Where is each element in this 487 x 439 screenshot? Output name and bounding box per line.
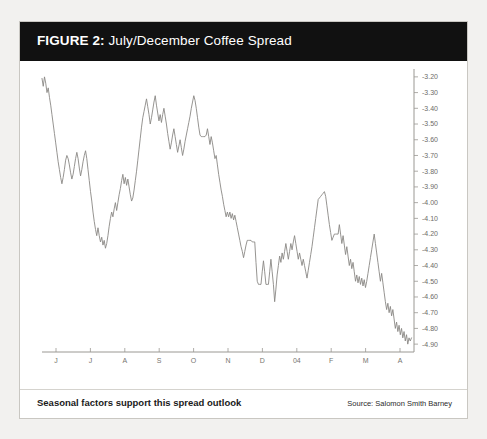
x-tick-label: A [122,357,127,364]
y-axis-ticks: -3.20-3.30-3.40-3.50-3.60-3.70-3.80-3.90… [414,73,438,347]
y-tick-label: -4.70 [422,309,438,316]
page-title: FIGURE 2: July/December Coffee Spread [37,33,292,48]
y-tick-label: -3.90 [422,183,438,190]
y-tick-label: -3.30 [422,89,438,96]
y-tick-label: -4.40 [422,262,438,269]
y-tick-label: -4.30 [422,246,438,253]
x-tick-label: O [191,357,197,364]
footer-note: Seasonal factors support this spread out… [37,397,241,408]
y-tick-label: -3.20 [422,73,438,80]
x-tick-label: 04 [293,357,301,364]
x-tick-label: N [225,357,230,364]
y-tick-label: -3.50 [422,120,438,127]
x-tick-label: J [54,357,58,364]
y-tick-label: -4.90 [422,341,438,348]
coffee-spread-line-chart: -3.20-3.30-3.40-3.50-3.60-3.70-3.80-3.90… [20,61,469,391]
y-tick-label: -4.60 [422,293,438,300]
y-tick-label: -4.00 [422,199,438,206]
figure-number: FIGURE 2: [37,33,105,48]
y-tick-label: -3.80 [422,168,438,175]
x-tick-label: A [398,357,403,364]
figure-title: July/December Coffee Spread [105,33,292,48]
figure-footer: Seasonal factors support this spread out… [20,389,467,418]
figure-title-bar: FIGURE 2: July/December Coffee Spread [20,22,467,61]
y-tick-label: -3.40 [422,105,438,112]
y-tick-label: -4.20 [422,230,438,237]
footer-source: Source: Salomon Smith Barney [347,399,452,408]
x-tick-label: F [329,357,333,364]
y-tick-label: -3.70 [422,152,438,159]
y-tick-label: -4.80 [422,325,438,332]
figure-card: FIGURE 2: July/December Coffee Spread -3… [19,21,468,419]
x-tick-label: J [89,357,93,364]
x-axis-ticks: JJASOND04FMA [54,348,402,364]
x-tick-label: D [260,357,265,364]
y-tick-label: -4.50 [422,278,438,285]
chart-plot-area: -3.20-3.30-3.40-3.50-3.60-3.70-3.80-3.90… [20,61,469,391]
y-tick-label: -3.60 [422,136,438,143]
y-tick-label: -4.10 [422,215,438,222]
spread-series-line [42,77,412,344]
x-tick-label: M [363,357,369,364]
x-tick-label: S [157,357,162,364]
